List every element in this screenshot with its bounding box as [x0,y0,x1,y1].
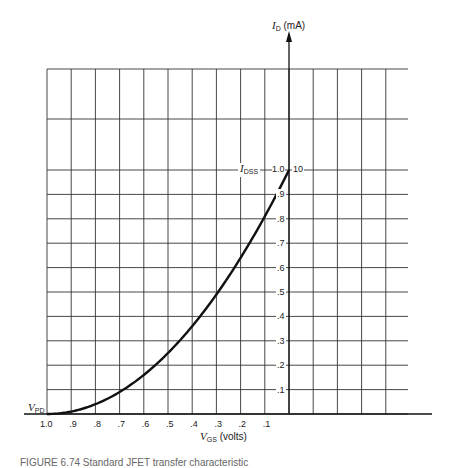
x-tick-label: .3 [214,419,222,429]
axes [24,31,432,414]
y-tick-label: .7 [276,238,286,248]
x-tick-label: .9 [69,419,77,429]
x-tick-label: .4 [190,419,198,429]
y-tick-label: .1 [276,385,286,395]
vpd-label: VPD [28,402,44,416]
x-tick-label: .6 [142,419,150,429]
ten-ma-label: 10 [292,164,304,174]
x-tick-label: .1 [263,419,271,429]
y-tick-label: .3 [276,336,286,346]
grid [47,69,408,414]
x-tick-label: .5 [166,419,174,429]
x-tick-label: .7 [118,419,126,429]
vgs-axis-title: VGS (volts) [200,431,247,445]
y-tick-label: .4 [276,311,286,321]
y-tick-label: .9 [276,189,286,199]
y-tick-label: .5 [276,287,286,297]
x-tick-label: 1.0 [40,419,53,429]
x-tick-label: .2 [239,419,247,429]
y-tick-label: .6 [276,263,286,273]
id-axis-title: ID (mA) [272,20,305,34]
figure-caption: FIGURE 6.74 Standard JFET transfer chara… [20,457,248,468]
idss-label: IDSS [238,163,260,177]
x-tick-label: .8 [93,419,101,429]
y-tick-label: 1.0 [272,164,285,174]
y-tick-label: .8 [276,214,286,224]
y-tick-label: .2 [276,360,286,370]
